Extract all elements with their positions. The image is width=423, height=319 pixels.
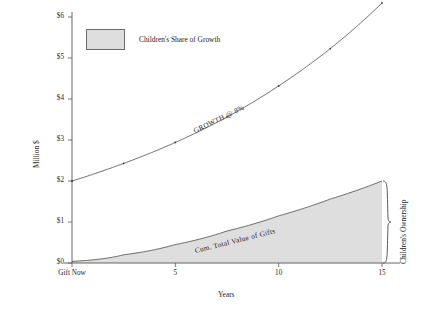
- y-tick-label: $6: [26, 13, 64, 20]
- y-axis-ticks: [68, 17, 72, 263]
- y-tick-label: $2: [26, 177, 64, 184]
- data-point-marker: [381, 2, 383, 4]
- y-axis-title: Million $: [33, 140, 40, 168]
- x-tick-label: Gift Now: [42, 270, 102, 277]
- data-point-marker: [123, 162, 125, 164]
- x-tick-label: 10: [249, 270, 309, 277]
- y-tick-label: $1: [26, 218, 64, 225]
- childrens-share-area: [72, 181, 382, 263]
- x-tick-label: 15: [352, 270, 412, 277]
- children-ownership-label: Children's Ownership: [400, 200, 407, 264]
- children-ownership-brace: [383, 181, 391, 263]
- data-point-marker: [329, 48, 331, 50]
- y-tick-label: $0: [26, 259, 64, 266]
- data-point-marker: [71, 180, 73, 182]
- y-tick-label: $4: [26, 95, 64, 102]
- legend-swatch-childrens-share: [86, 29, 125, 50]
- data-point-marker: [278, 85, 280, 87]
- y-tick-label: $5: [26, 54, 64, 61]
- x-tick-label: 5: [145, 270, 205, 277]
- chart-figure: Children's Share of Growth Million $ Yea…: [0, 0, 423, 319]
- x-axis-ticks: [72, 263, 382, 267]
- y-tick-label: $3: [26, 136, 64, 143]
- x-axis-title: Years: [218, 291, 235, 298]
- data-point-marker: [174, 142, 176, 144]
- legend-label-childrens-share: Children's Share of Growth: [139, 36, 220, 43]
